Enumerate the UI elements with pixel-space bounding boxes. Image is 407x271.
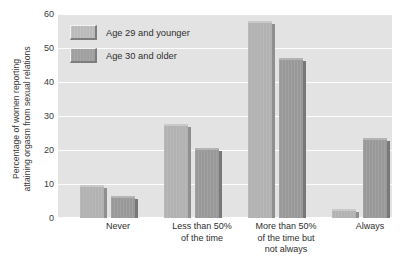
bar-right-shadow [188,127,191,218]
bar-top-highlight [279,58,303,60]
bar-body [279,58,303,218]
bar-top-highlight [332,209,356,211]
legend: Age 29 and younger Age 30 and older [70,21,190,67]
x-label-less-than-50: Less than 50% of the time [158,221,246,244]
y-tick-label: 60 [30,10,54,19]
bar-body [195,148,219,218]
legend-swatch-age30-older [70,48,97,63]
bar-top-highlight [111,196,135,198]
bar-body [164,124,188,218]
bar-right-shadow [219,151,222,218]
y-tick-label: 10 [30,180,54,189]
x-label-line: Less than 50% [158,221,246,233]
x-label-line: of the time [158,233,246,245]
bar-more50-age30-older [279,58,306,218]
bar-never-age29-younger [80,185,107,218]
y-tick-label: 30 [30,112,54,121]
bar-group-always [332,14,392,218]
bar-right-shadow [104,188,107,218]
x-label-line: of the time but [242,233,330,245]
bar-group-more-than-50 [248,14,324,218]
bar-body [111,196,135,218]
legend-item-age29-younger: Age 29 and younger [70,21,190,44]
bar-right-shadow [387,141,390,218]
y-tick-label: 20 [30,146,54,155]
y-axis-tick-labels: 0 10 20 30 40 50 60 [30,0,54,271]
legend-label-age30-older: Age 30 and older [106,51,177,61]
x-label-line: More than 50% [242,221,330,233]
x-label-line: Always [332,221,407,233]
y-tick-label: 50 [30,44,54,53]
bar-top-highlight [164,124,188,126]
y-axis-title-line-1: Percentage of women reporting [11,9,22,229]
x-axis-category-labels: Never Less than 50% of the time More tha… [58,221,392,269]
y-tick-label: 40 [30,78,54,87]
legend-label-age29-younger: Age 29 and younger [106,28,190,38]
bar-body [248,21,272,218]
bar-right-shadow [272,24,275,218]
bar-top-highlight [80,185,104,187]
bar-right-shadow [303,61,306,218]
x-label-more-than-50: More than 50% of the time but not always [242,221,330,256]
plot-area: Age 29 and younger Age 30 and older [58,14,392,218]
bar-always-age30-older [363,138,390,218]
x-label-line: Never [80,221,156,233]
y-tick-label: 0 [30,214,54,223]
legend-swatch-age29-younger [70,25,97,40]
bar-right-shadow [135,199,138,218]
x-label-never: Never [80,221,156,233]
bar-body [363,138,387,218]
bar-less50-age30-older [195,148,222,218]
bar-right-shadow [356,212,359,218]
bar-top-highlight [363,138,387,140]
bar-more50-age29-younger [248,21,275,218]
legend-item-age30-older: Age 30 and older [70,44,190,67]
x-label-always: Always [332,221,407,233]
bar-never-age30-older [111,196,138,218]
bar-always-age29-younger [332,209,359,218]
bar-chart: Percentage of women reporting attaining … [0,0,407,271]
bar-body [80,185,104,218]
bar-less50-age29-younger [164,124,191,218]
bar-top-highlight [195,148,219,150]
x-label-line: not always [242,244,330,256]
bar-top-highlight [248,21,272,23]
